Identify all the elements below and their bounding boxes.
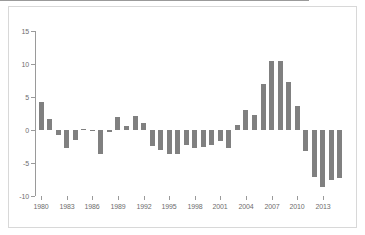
bar-series — [0, 0, 365, 235]
bar — [141, 123, 146, 130]
bar — [39, 102, 44, 130]
bar — [115, 117, 120, 130]
bar — [295, 106, 300, 130]
bar — [269, 61, 274, 130]
bar — [167, 130, 172, 154]
bar — [312, 130, 317, 177]
bar — [337, 130, 342, 178]
bar — [303, 130, 308, 151]
bar — [261, 84, 266, 130]
bar — [201, 130, 206, 147]
bar — [252, 115, 257, 130]
bar — [64, 130, 69, 148]
bar — [47, 119, 52, 130]
bar — [209, 130, 214, 145]
bar — [192, 130, 197, 148]
bar — [184, 130, 189, 145]
bar — [226, 130, 231, 148]
bar — [133, 116, 138, 130]
bar — [107, 130, 112, 132]
chart-figure: 151050-5-10 1980198319861989199219951998… — [0, 0, 365, 235]
bar — [158, 130, 163, 150]
bar — [56, 130, 61, 135]
bar — [124, 126, 129, 130]
bar — [329, 130, 334, 180]
bar — [235, 125, 240, 130]
bar — [73, 130, 78, 140]
bar — [90, 130, 95, 131]
bar — [286, 82, 291, 130]
bar — [150, 130, 155, 146]
bar — [278, 61, 283, 130]
bar — [320, 130, 325, 187]
bar — [243, 110, 248, 130]
bar — [98, 130, 103, 154]
bar — [218, 130, 223, 141]
bar — [175, 130, 180, 154]
bar — [81, 129, 86, 130]
